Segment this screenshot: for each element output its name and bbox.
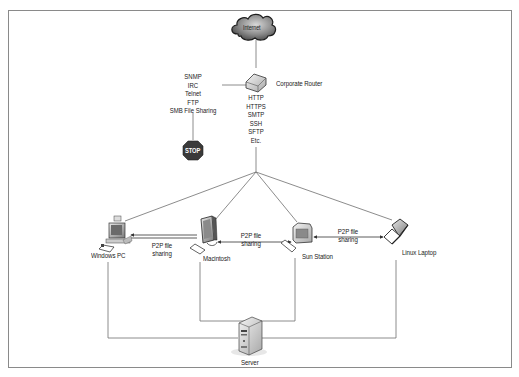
blocked-protocol: SMB File Sharing: [165, 107, 221, 116]
linux-laptop-label: Linux Laptop: [402, 249, 436, 257]
router-label: Corporate Router: [276, 80, 322, 88]
windows-pc-icon: [99, 216, 132, 252]
p2p-label-pc-mac: P2P file sharing: [150, 242, 175, 259]
network-diagram: Internet Corporate Router STOP SNMP IRC …: [0, 0, 519, 377]
server-label: Server: [241, 359, 259, 367]
internet-label: Internet: [243, 24, 260, 32]
macintosh-label: Macintosh: [203, 255, 230, 263]
allowed-protocols-list: HTTP HTTPS SMTP SSH SFTP Etc.: [236, 94, 276, 146]
router-icon: [246, 74, 266, 92]
p2p-label-mac-sun: P2P file sharing: [239, 232, 264, 249]
linux-laptop-icon: [384, 219, 408, 244]
diagram-canvas: [0, 0, 519, 377]
allowed-protocol: Etc.: [240, 137, 272, 146]
server-icon: [231, 317, 267, 356]
sun-station-label: Sun Station: [302, 253, 333, 261]
blocked-protocols-list: SNMP IRC Telnet FTP SMB File Sharing: [158, 73, 228, 116]
windows-pc-label: Windows PC: [91, 252, 125, 260]
stop-label: STOP: [185, 147, 200, 155]
p2p-label-sun-linux: P2P file sharing: [336, 228, 361, 245]
sun-station-icon: [281, 223, 312, 252]
